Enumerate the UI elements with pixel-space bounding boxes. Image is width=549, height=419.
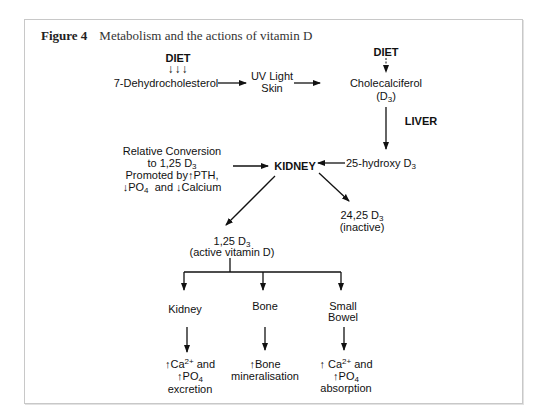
node-25-hydroxy-d3: 25-hydroxy D3	[346, 157, 436, 169]
effect-bone-line2: mineralisation	[225, 370, 305, 382]
arrow-kidney-to-inactive	[319, 173, 349, 201]
target-kidney: Kidney	[160, 303, 210, 315]
node-24-25-d3: 24,25 D3	[332, 209, 392, 221]
effect-kidney-line1: ↑Ca2+ and	[150, 358, 230, 370]
effect-bowel-line1: ↑ Ca2+ and	[309, 358, 383, 370]
up-arrow-icon: ↑	[319, 358, 325, 370]
liver-label: LIVER	[401, 115, 441, 127]
regulation-line1: Relative Conversion	[112, 145, 232, 157]
diagram-arrows	[0, 0, 549, 419]
arrow-kidney-to-active	[226, 176, 275, 225]
target-bone: Bone	[240, 300, 290, 312]
node-7-dehydrocholesterol: 7-Dehydrocholesterol	[112, 77, 220, 89]
node-active-vitamin-d: (active vitamin D)	[180, 246, 284, 258]
node-cholecalciferol-d3: (D3)	[336, 90, 436, 102]
diet-right-label: DIET	[361, 46, 411, 58]
regulation-line2: to 1,25 D3	[112, 157, 232, 169]
node-cholecalciferol: Cholecalciferol	[336, 77, 436, 89]
effect-kidney-line2: ↑PO4	[150, 370, 230, 382]
node-kidney-center: KIDNEY	[272, 160, 318, 172]
effect-kidney-line3: excretion	[150, 383, 230, 395]
effect-bowel-line2: ↑PO4	[309, 370, 383, 382]
regulation-line3: Promoted by↑PTH,	[112, 169, 232, 181]
diet-arrows-icon: ↓↓↓	[153, 63, 203, 75]
regulation-line4: ↓PO4 and ↓Calcium	[112, 181, 232, 193]
effect-bowel-line3: absorption	[309, 382, 383, 394]
target-small-bowel-line2: Bowel	[318, 311, 368, 323]
node-skin: Skin	[247, 82, 297, 94]
effect-bone-line1: ↑Bone	[225, 358, 305, 370]
node-inactive-label: (inactive)	[332, 221, 392, 233]
node-uv-light: UV Light	[247, 70, 297, 82]
